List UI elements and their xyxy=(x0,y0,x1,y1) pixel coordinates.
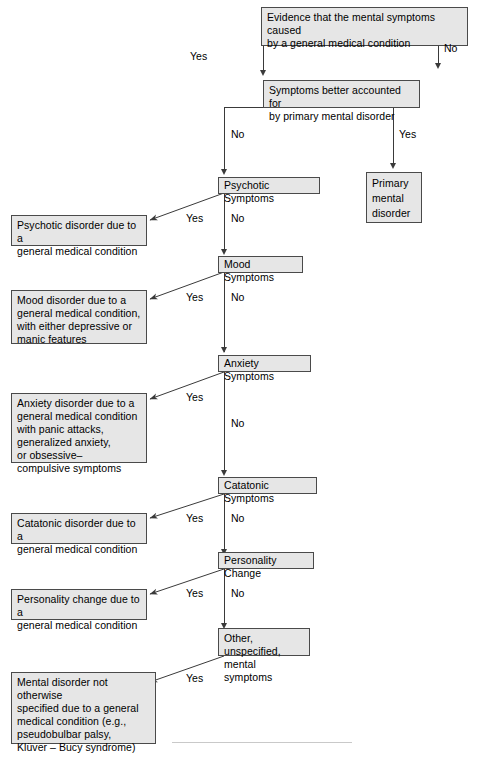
edge-anxiety-no-line xyxy=(224,372,225,474)
edge-label-mood-no: No xyxy=(231,291,244,303)
edge-label-better-yes: Yes xyxy=(399,128,416,140)
edge-mood-no-arrow xyxy=(221,347,227,353)
footer-rule xyxy=(172,742,352,743)
node-catatonic-symptoms[interactable]: Catatonic Symptoms xyxy=(218,477,317,494)
node-psychotic-disorder-outcome[interactable]: Psychotic disorder due to a general medi… xyxy=(11,215,147,246)
edge-better-no-stub xyxy=(224,107,264,108)
edge-label-anxiety-yes: Yes xyxy=(186,391,203,403)
edge-psychotic-no-arrow xyxy=(221,249,227,255)
edge-evidence-no-arrow xyxy=(435,63,441,69)
edge-label-catatonic-yes: Yes xyxy=(186,512,203,524)
edge-better-no-arrow xyxy=(221,169,227,175)
edge-label-evidence-yes: Yes xyxy=(190,50,207,62)
edge-better-no-line xyxy=(224,107,225,171)
edge-label-personality-yes: Yes xyxy=(186,587,203,599)
flowchart-canvas: Evidence that the mental symptoms caused… xyxy=(0,0,478,757)
edge-label-catatonic-no: No xyxy=(231,512,244,524)
edge-anxiety-no-arrow xyxy=(221,470,227,476)
node-catatonic-disorder-outcome[interactable]: Catatonic disorder due to a general medi… xyxy=(11,513,147,544)
edge-label-mood-yes: Yes xyxy=(186,291,203,303)
edge-label-psychotic-yes: Yes xyxy=(186,212,203,224)
edge-label-personality-no: No xyxy=(231,587,244,599)
edge-label-psychotic-no: No xyxy=(231,212,244,224)
node-mood-symptoms[interactable]: Mood Symptoms xyxy=(218,256,303,273)
node-anxiety-symptoms[interactable]: Anxiety Symptoms xyxy=(218,355,311,372)
edge-label-other-yes: Yes xyxy=(186,672,203,684)
node-mental-disorder-nos-outcome[interactable]: Mental disorder not otherwise specified … xyxy=(11,672,156,744)
node-other-unspecified-symptoms[interactable]: Other, unspecified, mental symptoms xyxy=(218,628,310,656)
node-primary-mental-disorder[interactable]: Primary mental disorder xyxy=(366,172,422,223)
edge-label-anxiety-no: No xyxy=(231,417,244,429)
edge-better-yes-arrow xyxy=(390,163,396,169)
node-personality-change[interactable]: Personality Change xyxy=(218,552,314,569)
edge-label-better-no: No xyxy=(231,128,244,140)
node-psychotic-symptoms[interactable]: Psychotic Symptoms xyxy=(218,177,320,194)
edge-evidence-yes-line xyxy=(263,46,264,72)
edge-mood-no-line xyxy=(224,272,225,352)
node-anxiety-disorder-outcome[interactable]: Anxiety disorder due to a general medica… xyxy=(11,393,147,463)
node-personality-change-outcome[interactable]: Personality change due to a general medi… xyxy=(11,589,147,620)
node-evidence[interactable]: Evidence that the mental symptoms caused… xyxy=(261,7,468,46)
node-symptoms-better-accounted[interactable]: Symptoms better accounted for by primary… xyxy=(263,80,420,108)
edge-label-evidence-no: No xyxy=(444,42,457,54)
edge-evidence-yes-arrow xyxy=(260,70,266,76)
node-mood-disorder-outcome[interactable]: Mood disorder due to a general medical c… xyxy=(11,290,147,344)
